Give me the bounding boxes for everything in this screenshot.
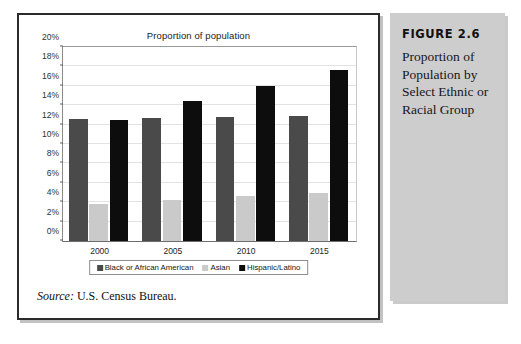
figure-caption-number: FIGURE 2.6 xyxy=(402,27,495,41)
chart-legend: Black or African AmericanAsianHispanic/L… xyxy=(89,260,309,275)
figure-caption-panel: FIGURE 2.6 Proportion of Population by S… xyxy=(390,13,505,301)
x-axis-tick-label: 2010 xyxy=(237,246,256,256)
x-axis-tick-labels: 2000200520102015 xyxy=(63,47,356,241)
y-axis-tick-label: 10% xyxy=(42,129,59,139)
x-axis-tick-label: 2005 xyxy=(163,246,182,256)
source-label: Source: xyxy=(37,289,74,303)
y-axis-tick-label: 20% xyxy=(42,32,59,42)
y-axis-tick-label: 14% xyxy=(42,90,59,100)
y-axis-tick-label: 0% xyxy=(47,226,59,236)
chart-title: Proportion of population xyxy=(19,30,378,41)
legend-item: Asian xyxy=(203,263,231,272)
y-axis-tick-label: 16% xyxy=(42,71,59,81)
y-axis-tick-label: 2% xyxy=(47,207,59,217)
y-axis-tick-label: 4% xyxy=(47,187,59,197)
plot-area: 0%2%4%6%8%10%12%14%16%18%20% 20002005201… xyxy=(62,46,357,242)
source-note: Source: U.S. Census Bureau. xyxy=(37,289,177,304)
legend-swatch xyxy=(239,265,245,271)
legend-swatch xyxy=(97,265,103,271)
x-axis-tick-label: 2000 xyxy=(90,246,109,256)
x-axis-tick-label: 2015 xyxy=(310,246,329,256)
legend-label: Black or African American xyxy=(105,263,194,272)
figure-caption-text: Proportion of Population by Select Ethni… xyxy=(402,48,495,118)
legend-label: Hispanic/Latino xyxy=(247,263,300,272)
y-axis-tick-label: 18% xyxy=(42,51,59,61)
legend-label: Asian xyxy=(211,263,231,272)
figure-panel: Proportion of population 0%2%4%6%8%10%12… xyxy=(17,13,380,320)
legend-item: Hispanic/Latino xyxy=(239,263,300,272)
y-axis-tick-label: 12% xyxy=(42,110,59,120)
source-text: U.S. Census Bureau. xyxy=(74,289,177,303)
legend-swatch xyxy=(203,265,209,271)
y-axis-tick-label: 6% xyxy=(47,168,59,178)
figure-root: Proportion of population 0%2%4%6%8%10%12… xyxy=(0,0,521,344)
y-axis-tick-label: 8% xyxy=(47,148,59,158)
legend-item: Black or African American xyxy=(97,263,194,272)
chart: Proportion of population 0%2%4%6%8%10%12… xyxy=(19,15,378,318)
